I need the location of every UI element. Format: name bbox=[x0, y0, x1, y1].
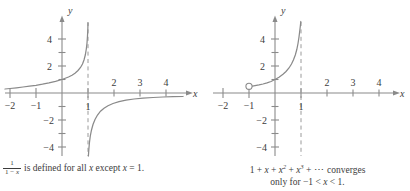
curve-right-branch bbox=[88, 97, 183, 157]
caption-segment-1: is defined for all bbox=[24, 163, 89, 173]
x-axis-label: x bbox=[399, 88, 405, 99]
x-tick-label-2: 2 bbox=[112, 77, 117, 88]
y-axis-arrow bbox=[60, 16, 65, 23]
caption-segment-2: except bbox=[93, 163, 123, 173]
series-ellipsis: ⋯ bbox=[314, 165, 325, 175]
left-caption-text: is defined for all x except x = 1. bbox=[24, 162, 144, 174]
right-caption-line-2: only for −1 < x < 1. bbox=[205, 176, 410, 188]
series-plus-2: + bbox=[286, 165, 296, 175]
y-tick-label--4: −4 bbox=[256, 142, 267, 153]
right-tick-labels: −2 −1 1 2 3 4 4 2 −2 −4 x y bbox=[218, 5, 405, 153]
converges-word: converges bbox=[325, 165, 366, 175]
x-tick-label--2: −2 bbox=[5, 100, 16, 111]
series-segment-1: 1 + bbox=[250, 165, 265, 175]
curve-convergent-series bbox=[251, 22, 300, 87]
fraction-denominator: 1 − x bbox=[3, 169, 21, 177]
x-tick-label--1: −1 bbox=[31, 100, 42, 111]
y-axis-arrow bbox=[273, 16, 278, 23]
series-plus-1: + bbox=[269, 165, 279, 175]
x-tick-label-3: 3 bbox=[138, 77, 143, 88]
denominator-prefix: 1 − bbox=[5, 168, 16, 176]
y-tick-label--2: −2 bbox=[256, 115, 267, 126]
x-tick-label--1: −1 bbox=[244, 100, 255, 111]
open-circle-point bbox=[246, 83, 252, 89]
interval-segment-2: < 1. bbox=[327, 177, 344, 187]
x-axis-arrow bbox=[393, 90, 400, 95]
caption-segment-3: = 1. bbox=[127, 163, 144, 173]
interval-segment-1: only for −1 < bbox=[270, 177, 323, 187]
x-tick-label-2: 2 bbox=[325, 77, 330, 88]
y-axis-label: y bbox=[280, 5, 286, 16]
x-axis-arrow bbox=[186, 90, 193, 95]
y-axis-label: y bbox=[67, 5, 73, 16]
x-tick-label-4: 4 bbox=[377, 77, 382, 88]
right-caption-line-1: 1 + x + x2 + x3 + ⋯ converges bbox=[205, 163, 410, 176]
right-caption: 1 + x + x2 + x3 + ⋯ converges only for −… bbox=[205, 163, 410, 188]
right-plot: −2 −1 1 2 3 4 4 2 −2 −4 x y bbox=[205, 0, 410, 163]
left-axes bbox=[5, 20, 186, 156]
x-axis-label: x bbox=[192, 88, 198, 99]
right-axes bbox=[213, 20, 393, 156]
series-plus-3: + bbox=[304, 165, 314, 175]
left-tick-labels: −2 −1 1 2 3 4 4 2 −2 −4 x y bbox=[5, 5, 198, 153]
fraction-numerator: 1 bbox=[7, 160, 17, 168]
x-tick-label-3: 3 bbox=[351, 77, 356, 88]
x-tick-label-1: 1 bbox=[86, 101, 91, 112]
denominator-variable: x bbox=[16, 168, 19, 176]
x-tick-label--2: −2 bbox=[218, 100, 229, 111]
y-tick-label--2: −2 bbox=[43, 115, 54, 126]
fraction-one-over-one-minus-x: 1 1 − x bbox=[3, 160, 21, 176]
y-tick-label-4: 4 bbox=[260, 34, 265, 45]
left-panel: −2 −1 1 2 3 4 4 2 −2 −4 x y 1 1 − x is d… bbox=[0, 0, 205, 191]
left-plot: −2 −1 1 2 3 4 4 2 −2 −4 x y bbox=[0, 0, 205, 160]
left-caption: 1 1 − x is defined for all x except x = … bbox=[0, 160, 205, 176]
figure-pair: −2 −1 1 2 3 4 4 2 −2 −4 x y 1 1 − x is d… bbox=[0, 0, 410, 191]
right-panel: −2 −1 1 2 3 4 4 2 −2 −4 x y 1 + x + x2 +… bbox=[205, 0, 410, 191]
y-tick-label-2: 2 bbox=[47, 61, 52, 72]
y-tick-label-2: 2 bbox=[260, 61, 265, 72]
x-tick-label-4: 4 bbox=[164, 77, 169, 88]
y-tick-label--4: −4 bbox=[43, 142, 54, 153]
y-tick-label-4: 4 bbox=[47, 34, 52, 45]
x-tick-label-1: 1 bbox=[299, 101, 304, 112]
